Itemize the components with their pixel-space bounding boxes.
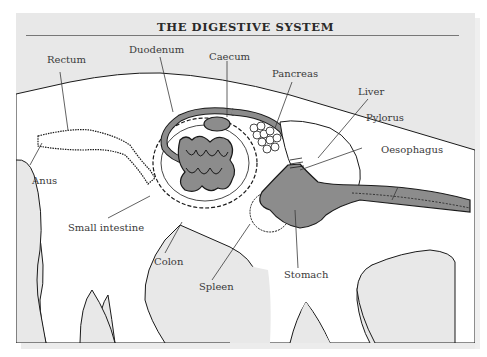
- label-rectum: Rectum: [47, 54, 86, 65]
- diagram-panel: THE DIGESTIVE SYSTEM: [16, 13, 475, 343]
- label-small-intestine: Small intestine: [68, 222, 144, 233]
- label-colon: Colon: [154, 256, 183, 267]
- panel-shadow-right: [475, 18, 480, 349]
- panel-shadow-bottom: [21, 343, 475, 349]
- label-caecum: Caecum: [209, 51, 250, 62]
- label-stomach: Stomach: [284, 269, 328, 280]
- small-intestine: [178, 136, 234, 191]
- label-liver: Liver: [358, 86, 384, 97]
- label-oesophagus: Oesophagus: [381, 144, 443, 155]
- label-pancreas: Pancreas: [272, 68, 318, 79]
- label-duodenum: Duodenum: [129, 44, 184, 55]
- caecum: [204, 117, 230, 131]
- label-spleen: Spleen: [199, 281, 234, 292]
- label-anus: Anus: [32, 175, 57, 186]
- label-pylorus: Pylorus: [366, 112, 404, 123]
